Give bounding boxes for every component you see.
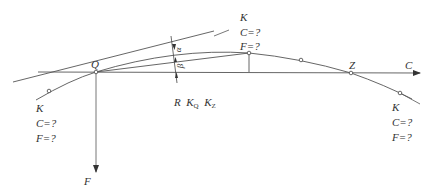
label-q: Q <box>91 58 99 70</box>
right-callout-leader <box>400 93 420 104</box>
label-kz: KZ <box>204 96 216 108</box>
callout-right-k: K <box>392 101 399 113</box>
callout-left-k: K <box>36 102 43 114</box>
callout-left-f: F=? <box>36 132 56 144</box>
point-right <box>398 91 402 95</box>
callout-right-c: C=? <box>392 116 412 128</box>
tangent-line <box>13 31 214 82</box>
center-labels: R KQ KZ <box>174 96 216 112</box>
callout-right-f: F=? <box>392 131 412 143</box>
callout-top-c: C=? <box>240 26 260 38</box>
callout-top-k: K <box>240 11 247 23</box>
label-z: Z <box>349 59 355 71</box>
callout-top-f: F=? <box>240 40 260 52</box>
top-callout-leader <box>214 30 229 36</box>
label-f-axis: F <box>84 175 91 187</box>
label-kq: KQ <box>186 96 198 108</box>
callout-left-c: C=? <box>36 117 56 129</box>
angle-alpha: α <box>173 48 183 53</box>
label-c-axis: C <box>405 59 412 71</box>
label-r: R <box>174 96 181 108</box>
point-q <box>94 70 98 74</box>
point-z <box>349 71 353 75</box>
angle-beta: β <box>175 64 185 68</box>
point-mid-right <box>299 58 303 62</box>
angle-arrow-mid <box>174 57 177 62</box>
point-left <box>47 89 51 93</box>
